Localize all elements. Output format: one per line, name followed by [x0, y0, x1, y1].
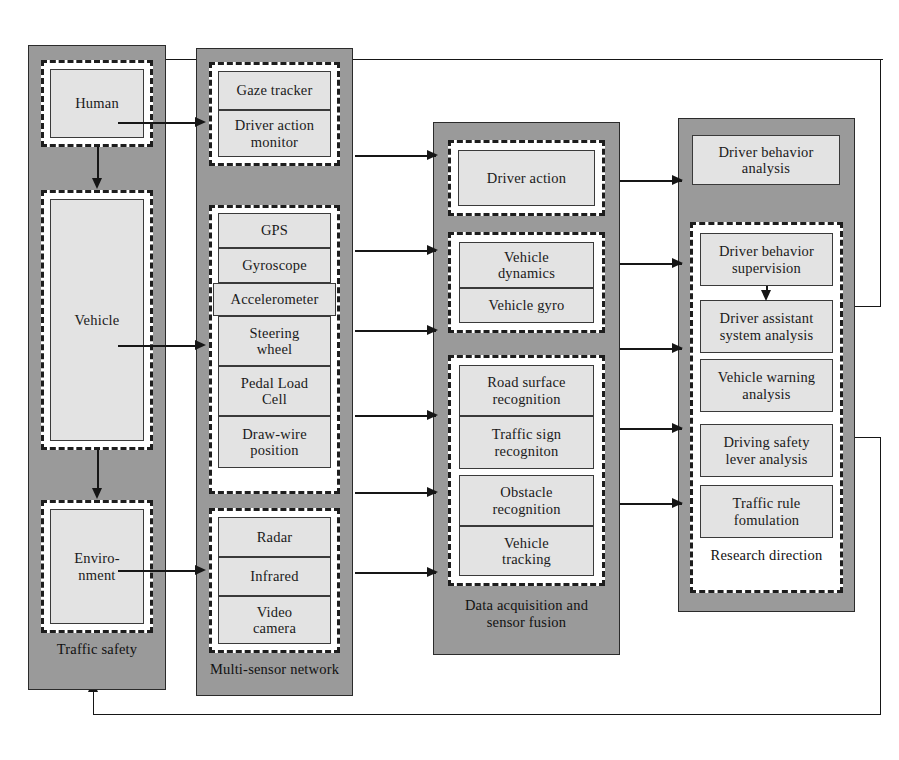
node-road-surface-recognition[interactable]: Road surfacerecognition: [459, 365, 594, 416]
caption-multi-sensor-network: Multi-sensor network: [193, 661, 356, 678]
caption-research-direction: Research direction: [690, 547, 843, 564]
node-vehicle-gyro[interactable]: Vehicle gyro: [459, 288, 594, 323]
node-human[interactable]: Human: [50, 69, 144, 138]
bottom-feedback-hline: [93, 714, 881, 715]
arrow-human-to-sensors-line: [118, 122, 199, 124]
node-vehicle[interactable]: Vehicle: [50, 199, 144, 441]
node-environment[interactable]: Enviro-nment: [50, 509, 144, 624]
arrow-acq-to-research-3-head: [672, 343, 683, 353]
arrow-sensors-to-acq-4-line: [355, 415, 436, 417]
node-vehicle-warning-analysis[interactable]: Vehicle warninganalysis: [700, 359, 833, 412]
arrow-acq-to-research-1-head: [672, 175, 683, 185]
arrow-vehicle-to-sensors-head: [195, 340, 206, 350]
diagram-canvas: Human Vehicle Enviro-nment Traffic safet…: [0, 0, 899, 760]
arrow-sensors-to-acq-4-head: [427, 410, 438, 420]
node-driver-action[interactable]: Driver action: [458, 150, 595, 206]
bottom-feedback-source-hline: [855, 437, 881, 438]
human-to-vehicle-arrow: [92, 178, 102, 189]
arrow-sensors-to-acq-3-head: [427, 325, 438, 335]
arrow-sensors-to-acq-2-head: [427, 245, 438, 255]
arrow-sensors-to-acq-2-line: [355, 250, 436, 252]
vehicle-to-environment-line: [97, 450, 99, 491]
arrow-sensors-to-acq-5-line: [355, 492, 436, 494]
top-feedback-right-vline: [880, 59, 881, 307]
node-traffic-rule-fomulation[interactable]: Traffic rulefomulation: [700, 485, 833, 538]
arrow-sensors-to-acq-1-line: [355, 155, 436, 157]
arrow-acq-to-research-4-head: [672, 423, 683, 433]
human-to-vehicle-line: [97, 147, 99, 181]
node-infrared[interactable]: Infrared: [218, 557, 331, 596]
arrow-sensors-to-acq-3-line: [355, 330, 436, 332]
arrow-human-to-sensors-head: [195, 117, 206, 127]
node-vehicle-tracking[interactable]: Vehicletracking: [459, 526, 594, 576]
node-driver-assistant-system-analysis[interactable]: Driver assistantsystem analysis: [700, 300, 833, 353]
supervision-to-assistant-arrow: [761, 290, 771, 301]
arrow-environment-to-sensors-line: [118, 570, 199, 572]
top-feedback-corner: [881, 59, 883, 60]
node-obstacle-recognition[interactable]: Obstaclerecognition: [459, 475, 594, 526]
node-driver-behavior-supervision[interactable]: Driver behaviorsupervision: [700, 233, 833, 286]
arrow-acq-to-research-2-head: [672, 258, 683, 268]
arrow-acq-to-research-5-head: [672, 498, 683, 508]
bottom-feedback-right-vline: [880, 437, 881, 715]
bottom-feedback-up-vline: [93, 690, 94, 715]
node-video-camera[interactable]: Videocamera: [218, 596, 331, 644]
arrow-sensors-to-acq-5-head: [427, 487, 438, 497]
node-driver-action-monitor[interactable]: Driver actionmonitor: [218, 110, 331, 157]
node-draw-wire-position[interactable]: Draw-wireposition: [218, 416, 331, 468]
arrow-environment-to-sensors-head: [195, 565, 206, 575]
vehicle-to-environment-arrow: [92, 488, 102, 499]
node-traffic-sign-recognition[interactable]: Traffic signrecogniton: [459, 416, 594, 469]
node-vehicle-dynamics[interactable]: Vehicledynamics: [459, 242, 594, 288]
node-gyroscope[interactable]: Gyroscope: [218, 248, 331, 283]
caption-data-acquisition: Data acquisition andsensor fusion: [433, 597, 620, 630]
arrow-sensors-to-acq-6-line: [355, 572, 436, 574]
caption-traffic-safety: Traffic safety: [28, 641, 166, 658]
arrow-sensors-to-acq-1-head: [427, 150, 438, 160]
node-driver-behavior-analysis[interactable]: Driver behavioranalysis: [692, 135, 840, 185]
node-driving-safety-lever-analysis[interactable]: Driving safetylever analysis: [700, 424, 833, 477]
node-pedal-load-cell[interactable]: Pedal LoadCell: [218, 366, 331, 416]
arrow-vehicle-to-sensors-line: [118, 345, 199, 347]
node-gaze-tracker[interactable]: Gaze tracker: [218, 71, 331, 110]
node-accelerometer[interactable]: Accelerometer: [213, 283, 336, 316]
arrow-sensors-to-acq-6-head: [427, 567, 438, 577]
node-gps[interactable]: GPS: [218, 213, 331, 248]
top-feedback-source-hline: [855, 306, 881, 307]
node-steering-wheel[interactable]: Steeringwheel: [218, 316, 331, 366]
node-radar[interactable]: Radar: [218, 517, 331, 557]
